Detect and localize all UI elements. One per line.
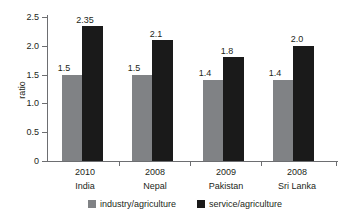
legend-label-industry: industry/agriculture <box>100 200 176 209</box>
bar-value-industry-srilanka: 1.4 <box>263 69 287 78</box>
x-label-country-pakistan: Pakistan <box>201 182 251 191</box>
y-tick-1 <box>42 132 47 133</box>
bar-value-industry-india: 1.5 <box>52 64 76 73</box>
x-tick-3 <box>261 162 262 166</box>
x-tick-2 <box>190 162 191 166</box>
x-label-country-india: India <box>60 182 110 191</box>
bar-service-india[interactable] <box>82 26 103 161</box>
y-tick-4 <box>42 46 47 47</box>
bar-value-industry-pakistan: 1.4 <box>193 69 217 78</box>
y-tick-2 <box>42 103 47 104</box>
legend-label-service: service/agriculture <box>209 200 282 209</box>
bar-value-service-srilanka: 2.0 <box>283 35 311 44</box>
bar-industry-pakistan[interactable] <box>203 80 223 161</box>
x-label-year-india: 2010 <box>60 168 110 177</box>
bar-service-nepal[interactable] <box>152 40 173 161</box>
x-axis-line <box>47 161 338 162</box>
bar-industry-india[interactable] <box>62 75 82 161</box>
bar-value-industry-nepal: 1.5 <box>122 64 146 73</box>
legend-item-service[interactable]: service/agriculture <box>197 198 282 210</box>
x-label-year-nepal: 2008 <box>130 168 180 177</box>
bar-industry-nepal[interactable] <box>132 75 152 161</box>
x-label-year-pakistan: 2009 <box>201 168 251 177</box>
y-tick-label-3: 1.5 <box>5 71 39 80</box>
bar-value-service-pakistan: 1.8 <box>213 47 241 56</box>
bar-service-pakistan[interactable] <box>223 57 244 161</box>
x-tick-1 <box>119 162 120 166</box>
x-label-country-srilanka: Sri Lanka <box>272 182 322 191</box>
legend-swatch-industry-icon <box>88 200 96 208</box>
y-tick-label-1: 0.5 <box>5 128 39 137</box>
y-tick-label-4: 2.0 <box>5 42 39 51</box>
legend-item-industry[interactable]: industry/agriculture <box>88 198 176 210</box>
y-tick-label-2: 1.0 <box>5 99 39 108</box>
bar-service-srilanka[interactable] <box>293 46 314 161</box>
x-tick-4 <box>336 162 337 166</box>
y-tick-label-5: 2.5 <box>5 13 39 22</box>
legend: industry/agriculture service/agriculture <box>0 198 346 212</box>
y-tick-label-0: 0 <box>5 157 39 166</box>
bar-value-service-nepal: 2.1 <box>142 30 170 39</box>
bar-value-service-india: 2.35 <box>71 16 99 25</box>
y-tick-5 <box>42 17 47 18</box>
x-label-year-srilanka: 2008 <box>272 168 322 177</box>
x-label-country-nepal: Nepal <box>130 182 180 191</box>
bar-chart: ratio 0 0.5 1.0 1.5 2.0 2.5 1.5 2.35 1.5… <box>0 0 346 220</box>
bar-industry-srilanka[interactable] <box>273 80 293 161</box>
legend-swatch-service-icon <box>197 200 205 208</box>
y-tick-3 <box>42 75 47 76</box>
y-tick-0 <box>42 161 47 162</box>
